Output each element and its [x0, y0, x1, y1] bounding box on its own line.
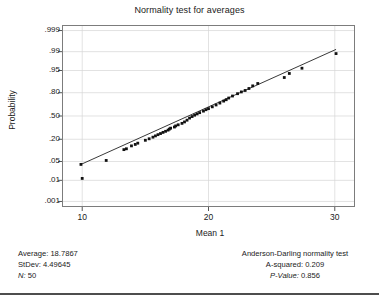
x-tick-label: 30 — [320, 212, 350, 222]
average-value: 18.7867 — [50, 249, 77, 258]
data-point — [198, 111, 201, 114]
data-point — [193, 114, 196, 117]
stdev-row: StDev: 4.49645 — [18, 260, 78, 271]
data-point — [215, 104, 218, 107]
p-value-row: P-Value: 0.856 — [219, 271, 371, 282]
data-point — [205, 108, 208, 111]
gridlines — [63, 26, 354, 206]
data-point — [174, 125, 177, 128]
y-tick-label: .50 — [28, 111, 60, 120]
data-point — [80, 163, 83, 166]
data-point — [191, 115, 194, 118]
p-value-value: 0.856 — [301, 271, 320, 280]
data-point — [256, 82, 259, 85]
data-point — [134, 143, 137, 146]
y-tick-label: .01 — [28, 175, 60, 184]
y-tick-label: .80 — [28, 87, 60, 96]
data-point — [152, 136, 155, 139]
data-point — [248, 87, 251, 90]
data-point — [202, 110, 205, 113]
data-point — [236, 92, 239, 95]
anderson-darling-results: Anderson-Darling normality test A-square… — [219, 249, 371, 281]
data-point — [283, 76, 286, 79]
data-point — [188, 117, 191, 120]
data-point — [231, 95, 234, 98]
data-point — [218, 102, 221, 105]
n-value: 50 — [28, 271, 36, 280]
summary-statistics: Average: 18.7867 StDev: 4.49645 N: 50 — [18, 249, 78, 281]
data-point — [244, 89, 247, 92]
test-name: Anderson-Darling normality test — [219, 249, 371, 260]
data-point — [288, 72, 291, 75]
data-point — [211, 105, 214, 108]
average-label: Average: — [18, 249, 48, 258]
data-point — [148, 137, 151, 140]
data-point — [222, 100, 225, 103]
a-squared-row: A-squared: 0.209 — [219, 260, 371, 271]
data-point — [122, 148, 125, 151]
data-point — [177, 123, 180, 126]
x-axis-label: Mean 1 — [150, 228, 270, 238]
n-row: N: 50 — [18, 271, 78, 282]
data-point — [154, 134, 157, 137]
data-point — [196, 113, 199, 116]
y-tick-label: .20 — [28, 134, 60, 143]
data-point — [125, 147, 128, 150]
data-point — [183, 121, 186, 124]
y-tick-label: .05 — [28, 156, 60, 165]
x-tick-label: 20 — [194, 212, 224, 222]
x-tick-label: 10 — [67, 212, 97, 222]
data-point — [227, 97, 230, 100]
data-point — [169, 127, 172, 130]
data-point — [181, 122, 184, 125]
data-point — [207, 107, 210, 110]
normal-probability-plot-panel: Normality test for averages .999.99.95.8… — [0, 0, 379, 298]
data-point — [81, 177, 84, 180]
y-tick-label: .95 — [28, 65, 60, 74]
a-squared-value: 0.209 — [305, 260, 324, 269]
data-point — [130, 144, 133, 147]
y-tick-label: .99 — [28, 46, 60, 55]
data-point — [159, 132, 162, 135]
average-row: Average: 18.7867 — [18, 249, 78, 260]
data-point — [335, 52, 338, 55]
p-value-label: P-Value: — [270, 271, 299, 280]
y-axis-label: Probability — [7, 80, 17, 140]
data-point — [240, 91, 243, 94]
y-tick-label: .001 — [28, 196, 60, 205]
y-tick-label: .999 — [28, 25, 60, 34]
data-point — [186, 119, 189, 122]
a-squared-label: A-squared: — [266, 260, 303, 269]
data-point — [301, 67, 304, 70]
axis-ticks — [58, 31, 335, 211]
data-point — [157, 133, 160, 136]
data-point — [144, 139, 147, 142]
data-point — [164, 130, 167, 133]
stdev-value: 4.49645 — [43, 260, 70, 269]
stdev-label: StDev: — [18, 260, 41, 269]
data-point — [136, 142, 139, 145]
data-point — [162, 131, 165, 134]
n-label: N: — [18, 271, 26, 280]
data-point — [105, 159, 108, 162]
bottom-divider — [0, 293, 379, 295]
data-point — [251, 84, 254, 87]
data-point — [225, 98, 228, 101]
